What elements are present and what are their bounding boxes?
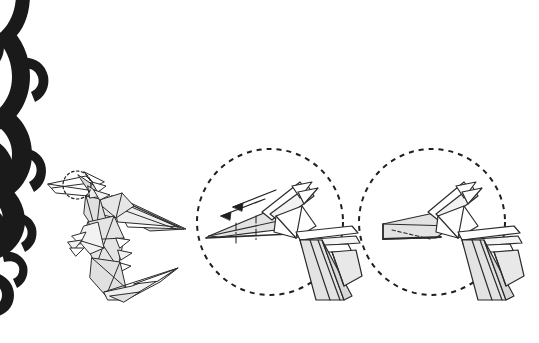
illustration-page [0, 0, 539, 343]
detail-circle-after-fold [0, 0, 539, 343]
